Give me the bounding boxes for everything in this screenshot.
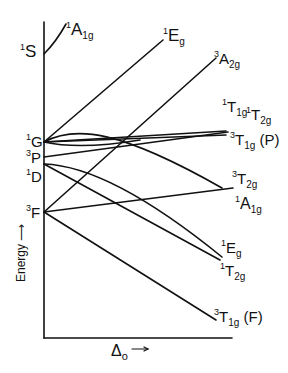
term-label-3F: 3F xyxy=(26,205,40,220)
line-1Eg-from-1G xyxy=(44,40,163,142)
term-label-1D: 1D xyxy=(26,169,42,184)
line-3A2g-from-3F xyxy=(44,58,216,212)
state-label-1T2g-top: 1T2g xyxy=(246,107,271,122)
line-1T2g-from-1D xyxy=(44,164,220,260)
line-1A1g-from-1S xyxy=(44,24,66,54)
term-label-1S: 1S xyxy=(20,43,36,60)
state-label-1A1g-top: 1A1g xyxy=(66,21,93,38)
state-label-1Eg: 1Eg xyxy=(221,240,242,255)
line-3T2g-from-3F xyxy=(44,188,233,212)
state-label-1T2g: 1T2g xyxy=(220,263,245,278)
state-label-3T2g: 3T2g xyxy=(232,171,257,186)
state-label-1Eg-top: 1Eg xyxy=(163,27,185,44)
y-axis-label: Energy ⟶ xyxy=(14,224,28,282)
state-label-1T1g: 1T1g xyxy=(222,99,247,114)
term-label-1G: 1G xyxy=(26,134,43,149)
state-label-3T1g-F: 3T1g (F) xyxy=(214,309,263,324)
state-label-1A1g: 1A1g xyxy=(235,196,262,212)
state-label-3A2g: 3A2g xyxy=(214,51,240,66)
line-3T1g-F-from-3F xyxy=(44,212,216,320)
term-label-3P: 3P xyxy=(26,150,41,165)
state-label-3T1g-P: 3T1g (P) xyxy=(230,132,279,147)
x-axis-label: Δo xyxy=(111,342,128,362)
